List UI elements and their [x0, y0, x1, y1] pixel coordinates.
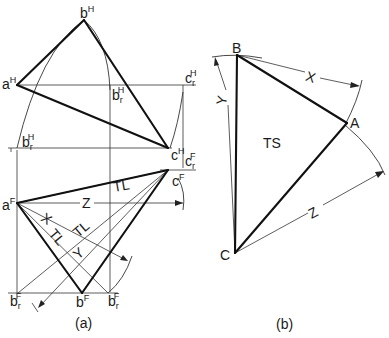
- label-br-h-center: brH: [112, 85, 124, 105]
- label-a-f: aF: [2, 196, 16, 213]
- label-y-b: Y: [213, 94, 230, 107]
- label-vertex-c: C: [220, 247, 230, 263]
- label-x-b: X: [304, 68, 318, 86]
- y-arrowhead: [38, 300, 45, 308]
- panel-a-frontal-view: Z X TL TL TL Y aF cF crF bF brF brF (a): [2, 151, 196, 331]
- label-z-b: Z: [305, 203, 320, 221]
- y-dim-line-b-lower: [228, 105, 235, 253]
- edge-ab-h: [17, 20, 84, 85]
- y-arrowhead-b: [214, 57, 219, 66]
- x-dim-line-b-left: [237, 55, 305, 72]
- label-z-a: Z: [82, 195, 91, 211]
- label-br-f-left: brF: [10, 291, 22, 311]
- label-c-h: cH: [171, 146, 185, 163]
- edge-bc-ts: [235, 55, 237, 253]
- edge-bc-h: [84, 20, 168, 148]
- revolution-arc-c: [170, 92, 183, 148]
- label-cr-f: crF: [185, 151, 196, 171]
- panel-b-true-shape: Y X Z B A C TS (b): [212, 40, 385, 332]
- label-a-h: aH: [2, 75, 16, 92]
- label-tl-top: TL: [112, 176, 131, 195]
- label-y-a: Y: [70, 244, 88, 263]
- edge-ac-h: [17, 85, 168, 148]
- label-x-a: X: [38, 209, 55, 228]
- tl-line-br-left-c: [18, 170, 168, 293]
- z-dim-line-b-left: [235, 213, 308, 253]
- caption-b: (b): [276, 316, 293, 332]
- panel-a-horizontal-view: bH aH cH brH brH crH: [2, 4, 197, 293]
- edge-ba-ts: [237, 55, 347, 123]
- label-tl-left: TL: [46, 226, 69, 249]
- edge-ac-f: [17, 170, 168, 203]
- edge-ac-ts: [235, 123, 347, 253]
- z-dim-line-b-right: [323, 172, 382, 205]
- label-br-f-right: brF: [108, 291, 120, 311]
- label-true-shape: TS: [263, 135, 281, 151]
- x-arrowhead: [120, 255, 128, 261]
- label-tl-mid: TL: [70, 217, 93, 240]
- label-b-h: bH: [80, 4, 94, 21]
- label-br-h-left: brH: [22, 132, 34, 152]
- label-c-f: cF: [172, 172, 185, 189]
- arc-a-z: [345, 125, 385, 175]
- label-vertex-b: B: [232, 40, 241, 56]
- z-arrowhead-b: [375, 171, 384, 178]
- true-shape-construction-figure: bH aH cH brH brH crH Z X TL T: [0, 0, 389, 338]
- caption-a: (a): [75, 315, 92, 331]
- revolution-arc-b-f: [108, 256, 132, 293]
- z-arrowhead: [175, 200, 183, 206]
- label-b-f: bF: [76, 293, 90, 310]
- revolution-arc-b-left: [17, 20, 84, 148]
- label-cr-h: crH: [185, 68, 197, 88]
- y-dim-tick: [32, 303, 38, 312]
- x-arrowhead-b: [350, 82, 360, 88]
- label-vertex-a: A: [350, 115, 360, 131]
